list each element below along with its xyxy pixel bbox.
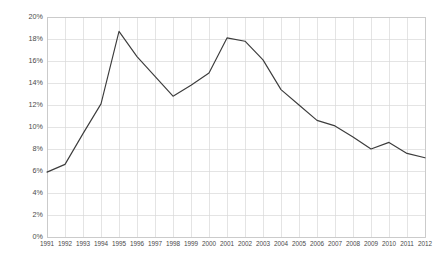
x-tick-label: 2004 [274,240,289,247]
x-tick-label: 2010 [382,240,397,247]
x-tick-label: 2006 [310,240,325,247]
x-tick-label: 2012 [418,240,433,247]
x-tick-label: 1991 [40,240,55,247]
x-tick-label: 1999 [184,240,199,247]
x-tick-label: 2008 [346,240,361,247]
x-tick-label: 2002 [238,240,253,247]
x-tick-label: 2011 [400,240,414,247]
y-axis-tick-labels: 0%2%4%6%8%10%12%14%16%18%20% [29,12,44,241]
x-tick-label: 1996 [130,240,145,247]
x-tick-label: 2001 [220,240,235,247]
data-series-lines [47,31,425,172]
y-tick-label: 14% [29,78,44,87]
x-tick-label: 2003 [256,240,271,247]
y-tick-label: 4% [33,188,44,197]
x-tick-label: 2007 [328,240,343,247]
x-tick-label: 1993 [76,240,91,247]
y-tick-label: 6% [33,166,44,175]
x-tick-label: 2005 [292,240,307,247]
y-tick-label: 18% [29,34,44,43]
x-tick-label: 1992 [58,240,73,247]
y-tick-label: 10% [29,122,44,131]
x-tick-label: 1997 [148,240,163,247]
x-axis-tick-labels: 1991199219931994199519961997199819992000… [40,240,433,247]
x-tick-label: 1994 [94,240,109,247]
x-tick-label: 1998 [166,240,181,247]
y-tick-label: 2% [33,210,44,219]
series-line [47,31,425,172]
line-chart: 0%2%4%6%8%10%12%14%16%18%20% 19911992199… [0,0,444,263]
y-tick-label: 20% [29,12,44,21]
x-tick-label: 2000 [202,240,217,247]
x-tick-label: 2009 [364,240,379,247]
y-tick-label: 8% [33,144,44,153]
chart-canvas: 0%2%4%6%8%10%12%14%16%18%20% 19911992199… [0,0,444,263]
y-tick-label: 12% [29,100,44,109]
x-tick-label: 1995 [112,240,127,247]
horizontal-gridlines [47,17,425,237]
y-tick-label: 16% [29,56,44,65]
